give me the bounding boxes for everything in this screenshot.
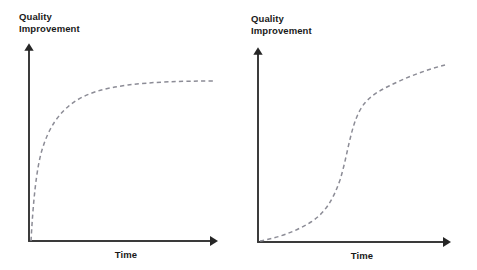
figure-canvas: Quality Improvement Time Quality Improve… [0, 0, 477, 270]
chart-right-svg [237, 0, 477, 270]
chart-right-s-curve: Quality Improvement Time [237, 0, 477, 270]
curve-diminishing-returns [31, 81, 215, 241]
chart-left-diminishing-returns: Quality Improvement Time [0, 0, 240, 270]
x-axis-label: Time [96, 249, 156, 261]
x-axis-label: Time [332, 250, 392, 262]
y-axis-label: Quality Improvement [251, 13, 312, 36]
curve-s-shape [260, 65, 445, 241]
y-axis-label: Quality Improvement [19, 11, 80, 34]
chart-left-svg [0, 0, 240, 270]
